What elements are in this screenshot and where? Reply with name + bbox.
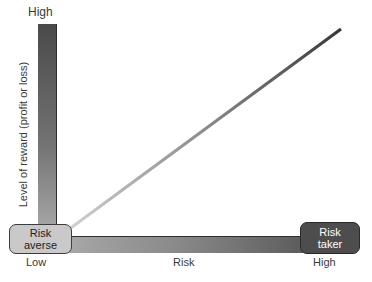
x-axis-high-label: High	[313, 256, 336, 269]
risk-averse-line1: Risk	[30, 227, 51, 239]
y-axis-title: Level of reward (profit or loss)	[17, 45, 30, 225]
risk-reward-diagram: High Level of reward (profit or loss) Ri…	[0, 0, 372, 282]
y-axis-gradient-bar	[38, 24, 57, 242]
x-axis-title: Risk	[173, 256, 194, 269]
risk-taker-node: Risk taker	[300, 222, 360, 254]
risk-averse-line2: averse	[24, 239, 57, 251]
risk-taker-line1: Risk	[319, 226, 340, 238]
x-axis-low-label: Low	[26, 256, 46, 269]
risk-taker-line2: taker	[318, 238, 342, 250]
risk-averse-node: Risk averse	[9, 224, 72, 254]
y-axis-high-label: High	[28, 6, 53, 19]
x-axis-gradient-bar	[38, 236, 340, 253]
